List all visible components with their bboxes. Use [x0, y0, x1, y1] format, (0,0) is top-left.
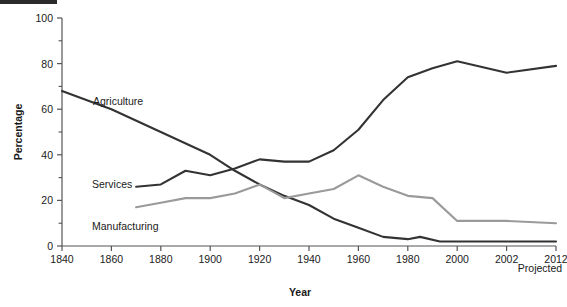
- x-tick-label: 1940: [297, 253, 321, 265]
- x-axis-tick-labels: 1840186018801900192019401960198020002002…: [50, 253, 567, 265]
- series-label-manufacturing: Manufacturing: [92, 220, 159, 232]
- x-tick-label: 1880: [149, 253, 173, 265]
- x-tick-label: 2002: [495, 253, 519, 265]
- x-tick-label: 1840: [50, 253, 74, 265]
- series-paths: [62, 61, 556, 241]
- x-tick-label: 2000: [446, 253, 470, 265]
- x-tick-label: 1980: [396, 253, 420, 265]
- x-tick-label: 1900: [199, 253, 223, 265]
- series-line-agriculture: [62, 91, 556, 241]
- y-tick-label: 80: [41, 58, 53, 70]
- x-tick-label: 1960: [347, 253, 371, 265]
- x-axis-title: Year: [289, 286, 311, 298]
- y-tick-label: 0: [47, 240, 53, 252]
- x-tick-label: 1920: [248, 253, 272, 265]
- y-tick-label: 100: [35, 12, 53, 24]
- projected-note: Projected: [518, 262, 563, 274]
- series-label-agriculture: Agriculture: [93, 95, 143, 107]
- series-line-manufacturing: [136, 175, 556, 223]
- y-tick-label: 40: [41, 149, 53, 161]
- cropped-header-bar: [0, 0, 57, 4]
- y-tick-label: 20: [41, 194, 53, 206]
- x-axis-ticks: [62, 246, 556, 251]
- line-chart: 020406080100 184018601880190019201940196…: [0, 0, 567, 307]
- chart-figure: 020406080100 184018601880190019201940196…: [0, 0, 567, 307]
- series-label-services: Services: [92, 178, 132, 190]
- y-axis-ticks: [57, 18, 62, 246]
- axis-lines: [62, 18, 556, 246]
- series-line-services: [136, 61, 556, 186]
- x-tick-label: 1860: [100, 253, 124, 265]
- y-axis-tick-labels: 020406080100: [35, 12, 53, 252]
- y-axis-title: Percentage: [12, 104, 24, 161]
- y-tick-label: 60: [41, 103, 53, 115]
